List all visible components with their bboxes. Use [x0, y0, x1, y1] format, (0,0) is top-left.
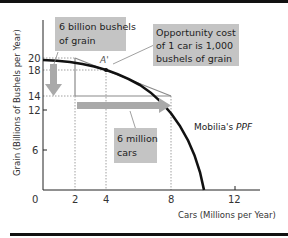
x-tick-8: 8: [168, 194, 174, 205]
grain-callout-line1: 6 billion bushels: [59, 21, 136, 32]
bottom-frame-bar: [10, 233, 288, 236]
down-arrow: [45, 64, 62, 96]
y-tick-20: 20: [28, 53, 41, 64]
guide-lines: [43, 58, 171, 190]
cost-callout-line1: Opportunity cost: [156, 27, 236, 38]
leader-grain: [54, 52, 58, 64]
ppf-chart: 6 billion bushels of grain Opportunity c…: [0, 0, 288, 238]
ppf-curve: [43, 60, 204, 190]
right-arrow: [77, 98, 171, 113]
leader-cars: [130, 111, 136, 130]
x-axis-title: Cars (Millions per Year): [178, 210, 276, 220]
curve-label: Mobilia's PPF: [194, 122, 253, 132]
x-tick-4: 4: [103, 194, 109, 205]
grain-callout-line2: of grain: [59, 35, 96, 46]
cars-callout-line1: 6 million: [117, 133, 158, 144]
y-tick-14: 14: [28, 91, 41, 102]
point-label: A': [99, 55, 109, 65]
x-tick-2: 2: [72, 194, 78, 205]
cost-callout-line2: of 1 car is 1,000: [156, 40, 233, 51]
top-frame-bar: [0, 0, 288, 3]
point-a-prime: [104, 68, 108, 72]
y-tick-12: 12: [28, 105, 41, 116]
y-axis-title: Grain (Billions of Bushels per Year): [12, 29, 22, 176]
cost-callout-line3: bushels of grain: [156, 53, 232, 64]
y-tick-6: 6: [32, 145, 38, 156]
x-tick-12: 12: [228, 194, 241, 205]
y-tick-18: 18: [28, 65, 41, 76]
x-tick-0: 0: [32, 194, 38, 205]
cars-callout-line2: cars: [117, 147, 137, 158]
